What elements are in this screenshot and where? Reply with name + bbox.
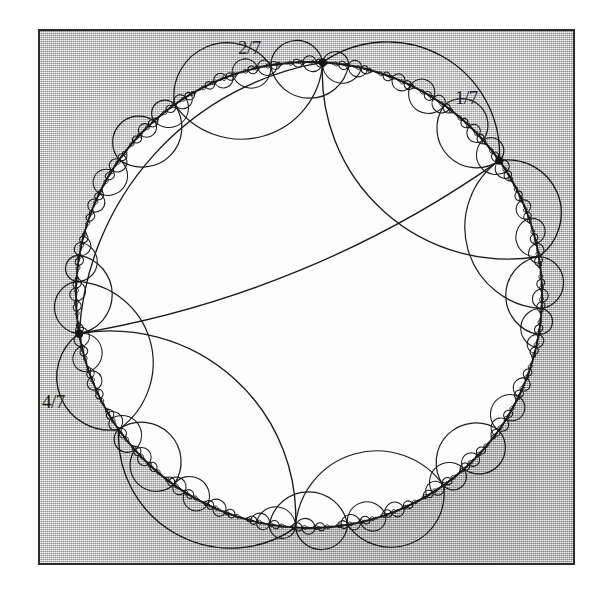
boundary-label-2-7: 2/7: [238, 38, 261, 57]
poincare-disk: [76, 62, 542, 528]
figure-root: 2/7 1/7 4/7: [0, 0, 609, 599]
lamination-diagram: [0, 0, 609, 599]
boundary-label-1-7: 1/7: [455, 88, 478, 107]
disk-interior: [76, 62, 542, 528]
boundary-point-4-7: [75, 329, 83, 337]
boundary-label-4-7: 4/7: [42, 392, 65, 411]
boundary-point-2-7: [318, 58, 326, 66]
boundary-point-1-7: [495, 156, 503, 164]
